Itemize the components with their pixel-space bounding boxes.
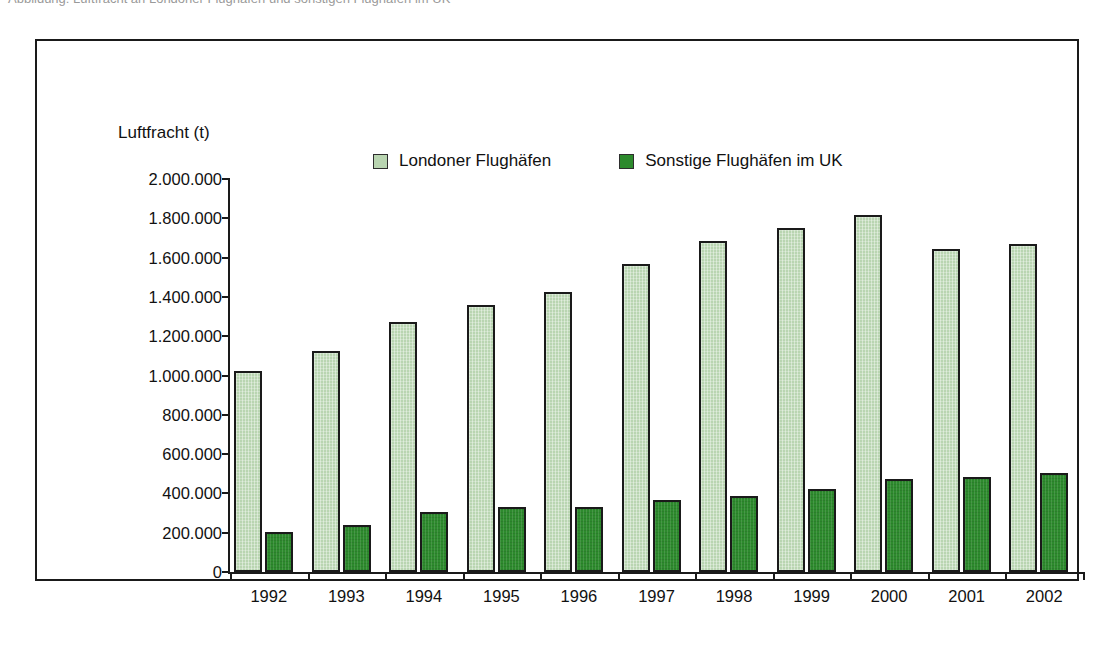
legend-item-london: Londoner Flughäfen <box>373 151 551 171</box>
cut-off-caption: Abbildung: Luftfracht an Londoner Flughä… <box>0 0 1118 8</box>
bar-london <box>467 305 495 572</box>
bar-london <box>854 215 882 572</box>
y-axis-tick <box>222 178 230 180</box>
legend-label-london: Londoner Flughäfen <box>399 151 551 171</box>
y-axis-title: Luftfracht (t) <box>118 123 210 143</box>
bar-london <box>777 228 805 572</box>
y-axis-tick <box>222 492 230 494</box>
y-axis-tick-label: 1.800.000 <box>149 209 222 228</box>
bar-group <box>618 179 696 572</box>
y-axis-tick-label: 1.200.000 <box>149 327 222 346</box>
x-axis-tick-label: 2002 <box>1005 587 1083 606</box>
plot-area: 2.000.0001.800.0001.600.0001.400.0001.20… <box>118 179 1084 579</box>
x-axis-tick-label: 1994 <box>385 587 463 606</box>
x-axis-tick <box>463 572 465 580</box>
x-axis-tick <box>773 572 775 580</box>
bar-london <box>544 292 572 572</box>
bar-group <box>695 179 773 572</box>
bar-london <box>234 371 262 572</box>
bar-group <box>1005 179 1083 572</box>
bar-other <box>343 525 371 572</box>
x-axis-tick <box>695 572 697 580</box>
y-axis-tick-label: 2.000.000 <box>149 170 222 189</box>
y-axis-tick <box>222 217 230 219</box>
y-axis-labels: 2.000.0001.800.0001.600.0001.400.0001.20… <box>118 179 222 573</box>
x-axis-tick <box>1083 572 1085 580</box>
y-axis-tick-label: 200.000 <box>162 523 222 542</box>
y-axis-tick <box>222 375 230 377</box>
bar-london <box>622 264 650 573</box>
legend-label-other: Sonstige Flughäfen im UK <box>645 151 843 171</box>
x-axis-tick <box>1005 572 1007 580</box>
y-axis-tick <box>222 532 230 534</box>
bar-other <box>498 507 526 572</box>
bar-group <box>850 179 928 572</box>
bar-group <box>928 179 1006 572</box>
y-axis-tick <box>222 257 230 259</box>
legend-swatch-london <box>373 154 388 169</box>
bar-other <box>963 477 991 572</box>
bar-group <box>308 179 386 572</box>
figure-frame: Luftfracht (t) Londoner Flughäfen Sonsti… <box>35 39 1079 581</box>
bar-group <box>463 179 541 572</box>
x-axis-tick-label: 2000 <box>850 587 928 606</box>
y-axis-tick-label: 800.000 <box>162 405 222 424</box>
legend-swatch-other <box>619 154 634 169</box>
cut-off-caption-text: Abbildung: Luftfracht an Londoner Flughä… <box>8 0 450 6</box>
bar-other <box>265 532 293 572</box>
y-axis-tick-label: 1.400.000 <box>149 287 222 306</box>
y-axis-tick-label: 1.000.000 <box>149 366 222 385</box>
bar-other <box>730 496 758 572</box>
chart-legend: Londoner Flughäfen Sonstige Flughäfen im… <box>373 151 843 171</box>
x-axis-tick <box>385 572 387 580</box>
x-axis-tick-label: 1997 <box>618 587 696 606</box>
bar-london <box>932 249 960 572</box>
x-axis-tick-label: 1995 <box>463 587 541 606</box>
x-axis-tick-label: 2001 <box>928 587 1006 606</box>
y-axis-tick <box>222 453 230 455</box>
x-axis-tick-label: 1998 <box>695 587 773 606</box>
x-axis-tick <box>928 572 930 580</box>
bar-other <box>653 500 681 572</box>
x-axis-tick <box>850 572 852 580</box>
y-axis-tick-label: 400.000 <box>162 484 222 503</box>
bar-london <box>389 322 417 572</box>
bar-group <box>773 179 851 572</box>
bar-group <box>540 179 618 572</box>
bar-groups <box>230 179 1083 573</box>
bar-london <box>699 241 727 572</box>
y-axis-tick-label: 0 <box>213 563 222 582</box>
bar-other <box>575 507 603 572</box>
bar-other <box>1040 473 1068 572</box>
x-axis-labels: 1992199319941995199619971998199920002001… <box>230 587 1083 615</box>
bar-group <box>230 179 308 572</box>
y-axis-tick <box>222 414 230 416</box>
x-axis-tick <box>230 572 232 580</box>
x-axis-tick <box>618 572 620 580</box>
y-axis-tick <box>222 335 230 337</box>
bar-other <box>808 489 836 572</box>
bar-london <box>312 351 340 572</box>
x-axis-tick-label: 1996 <box>540 587 618 606</box>
x-axis-tick-label: 1999 <box>773 587 851 606</box>
bar-other <box>420 512 448 572</box>
bar-group <box>385 179 463 572</box>
y-axis-tick-label: 1.600.000 <box>149 248 222 267</box>
y-axis-tick <box>222 571 230 573</box>
x-axis-tick <box>540 572 542 580</box>
bar-other <box>885 479 913 572</box>
x-axis-tick-label: 1993 <box>308 587 386 606</box>
x-axis-tick <box>308 572 310 580</box>
x-axis-tick-label: 1992 <box>230 587 308 606</box>
y-axis-tick-label: 600.000 <box>162 445 222 464</box>
bar-london <box>1009 244 1037 572</box>
y-axis-tick <box>222 296 230 298</box>
legend-item-other: Sonstige Flughäfen im UK <box>619 151 843 171</box>
